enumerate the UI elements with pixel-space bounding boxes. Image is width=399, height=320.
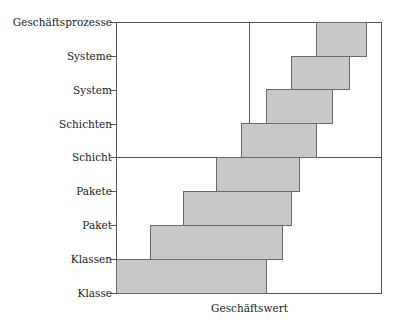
bar-pakete bbox=[183, 191, 292, 226]
ylabel-pakete: Pakete bbox=[76, 185, 112, 197]
bar-schichten bbox=[241, 123, 317, 158]
ylabel-schicht: Schicht bbox=[72, 151, 112, 163]
ylabel-klasse: Klasse bbox=[78, 287, 112, 299]
bar-geschaeftsprozesse bbox=[316, 22, 367, 57]
ylabel-schichten: Schichten bbox=[59, 118, 112, 130]
bar-paket bbox=[150, 225, 283, 260]
ylabel-geschaeftsprozesse: Geschäftsprozesse bbox=[13, 16, 112, 28]
bar-systeme bbox=[291, 56, 350, 90]
ylabel-systeme: Systeme bbox=[67, 50, 112, 62]
bar-system bbox=[266, 89, 333, 124]
ylabel-paket: Paket bbox=[82, 219, 112, 231]
ylabel-system: System bbox=[73, 84, 112, 96]
x-axis-label: Geschäftswert bbox=[0, 302, 399, 314]
bar-schicht bbox=[216, 157, 300, 192]
ylabel-klassen: Klassen bbox=[71, 253, 112, 265]
bar-klassen bbox=[116, 259, 267, 294]
